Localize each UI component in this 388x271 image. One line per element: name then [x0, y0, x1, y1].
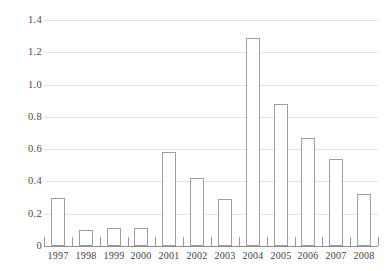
bar-1999 — [107, 228, 121, 246]
gridline — [44, 20, 378, 21]
y-tick-label: 0 — [6, 241, 42, 251]
x-tick-mark — [155, 237, 156, 246]
gridline — [44, 117, 378, 118]
y-tick-label: 1.0 — [6, 80, 42, 90]
gridline — [44, 85, 378, 86]
bar-2002 — [190, 178, 204, 246]
x-tick-label-2000: 2000 — [127, 250, 155, 262]
bar-1998 — [79, 230, 93, 246]
y-tick-label: 0.8 — [6, 112, 42, 122]
x-tick-mark — [100, 237, 101, 246]
gridline — [44, 149, 378, 150]
bar-2003 — [218, 199, 232, 246]
y-tick-label: 1.2 — [6, 47, 42, 57]
x-tick-mark — [350, 237, 351, 246]
bar-2000 — [134, 228, 148, 246]
bar-2001 — [162, 152, 176, 246]
x-tick-mark — [239, 237, 240, 246]
y-tick-label: 0.6 — [6, 144, 42, 154]
x-tick-mark — [211, 237, 212, 246]
x-tick-mark — [322, 237, 323, 246]
bar-1997 — [51, 198, 65, 246]
plot-area: 00.20.40.60.81.01.21.4 19971998199920002… — [0, 0, 388, 271]
x-tick-label-2004: 2004 — [239, 250, 267, 262]
x-tick-label-2005: 2005 — [267, 250, 295, 262]
x-tick-label-2007: 2007 — [322, 250, 350, 262]
x-tick-mark — [128, 237, 129, 246]
gridline — [44, 181, 378, 182]
bar-2006 — [301, 138, 315, 246]
x-axis-line — [44, 246, 378, 247]
gridline — [44, 214, 378, 215]
x-tick-mark — [378, 237, 379, 246]
gridline — [44, 52, 378, 53]
y-tick-label: 1.4 — [6, 15, 42, 25]
x-tick-label-2003: 2003 — [211, 250, 239, 262]
x-tick-label-1999: 1999 — [100, 250, 128, 262]
x-tick-label-1998: 1998 — [72, 250, 100, 262]
bar-2005 — [274, 104, 288, 246]
bar-chart-figure: · · · 00.20.40.60.81.01.21.4 19971998199… — [0, 0, 388, 271]
x-tick-label-2008: 2008 — [350, 250, 378, 262]
bar-2007 — [329, 159, 343, 246]
x-tick-mark — [295, 237, 296, 246]
x-tick-mark — [183, 237, 184, 246]
x-tick-label-2002: 2002 — [183, 250, 211, 262]
x-tick-label-1997: 1997 — [44, 250, 72, 262]
x-tick-mark — [72, 237, 73, 246]
bar-2004 — [246, 38, 260, 246]
x-tick-mark — [267, 237, 268, 246]
x-tick-label-2001: 2001 — [155, 250, 183, 262]
x-tick-label-2006: 2006 — [294, 250, 322, 262]
x-tick-mark — [44, 237, 45, 246]
bar-2008 — [357, 194, 371, 246]
y-tick-label: 0.4 — [6, 176, 42, 186]
y-tick-label: 0.2 — [6, 209, 42, 219]
